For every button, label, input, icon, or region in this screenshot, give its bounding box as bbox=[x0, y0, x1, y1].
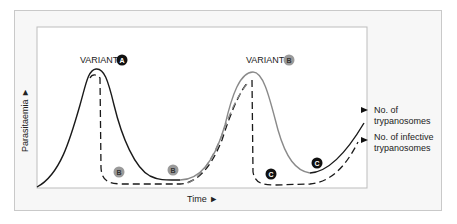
legend-1-line2: trypanosomes bbox=[374, 116, 431, 126]
variant-a-label: VARIANT bbox=[80, 55, 119, 65]
variant-a-badge-letter: A bbox=[119, 57, 124, 64]
variant-b-label: VARIANT bbox=[246, 55, 285, 65]
parasitaemia-diagram: Parasitaemia ► Time ► VARIANT A VARIANT … bbox=[0, 0, 457, 224]
legend-1-line1: No. of bbox=[374, 105, 399, 115]
y-axis-label: Parasitaemia ► bbox=[20, 88, 30, 152]
legend-2-line1: No. of infective bbox=[374, 132, 434, 142]
variant-b-badge-letter: B bbox=[286, 57, 291, 64]
x-axis-label: Time ► bbox=[187, 194, 218, 204]
trough-badge-c-solid-letter: C bbox=[314, 160, 319, 167]
trough-badge-c-dashed-letter: C bbox=[268, 171, 273, 178]
trough-badge-b-dashed-letter: B bbox=[116, 169, 121, 176]
trough-badge-b-solid-letter: B bbox=[170, 167, 175, 174]
legend-2-line2: trypanosomes bbox=[374, 143, 431, 153]
